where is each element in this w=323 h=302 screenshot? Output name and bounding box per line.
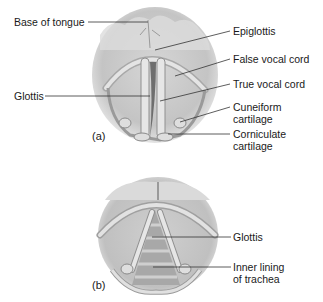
label-corniculate-cartilage-line1: Corniculate (233, 128, 286, 140)
panel-b-drawing (98, 177, 218, 293)
label-inner-lining-line2: of trachea (233, 273, 280, 285)
panel-a-tag: (a) (92, 130, 105, 142)
label-corniculate-cartilage-line2: cartilage (233, 140, 273, 152)
label-base-of-tongue: Base of tongue (14, 16, 85, 28)
label-glottis-a: Glottis (14, 90, 44, 102)
label-cuneiform-cartilage-line2: cartilage (233, 113, 273, 125)
panel-a-drawing (92, 7, 218, 143)
larynx-illustration (0, 0, 323, 302)
panel-b-tag: (b) (92, 279, 105, 291)
label-glottis-b: Glottis (233, 231, 263, 243)
label-epiglottis: Epiglottis (233, 25, 276, 37)
label-inner-lining-line1: Inner lining (233, 261, 284, 273)
label-true-vocal-cord: True vocal cord (233, 78, 305, 90)
label-false-vocal-cord: False vocal cord (233, 53, 309, 65)
label-cuneiform-cartilage-line1: Cuneiform (233, 101, 281, 113)
